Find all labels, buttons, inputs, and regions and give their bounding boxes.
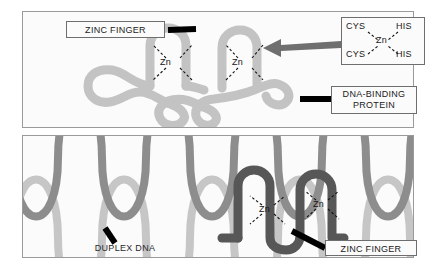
zn-label-bottom-left: Zn [259, 204, 270, 214]
bottom-panel-graphics [0, 0, 436, 270]
zn-label-bottom-right: Zn [313, 199, 324, 209]
label-zinc-finger-bottom: ZINC FINGER [325, 240, 417, 256]
label-duplex-dna: DUPLEX DNA [79, 243, 171, 255]
leader-duplex-dna [105, 228, 115, 243]
dna-strand-dark [14, 100, 434, 217]
zinc-finger-figure: ZINC FINGER DNA-BINDING PROTEIN Zn Zn CY… [0, 0, 436, 270]
